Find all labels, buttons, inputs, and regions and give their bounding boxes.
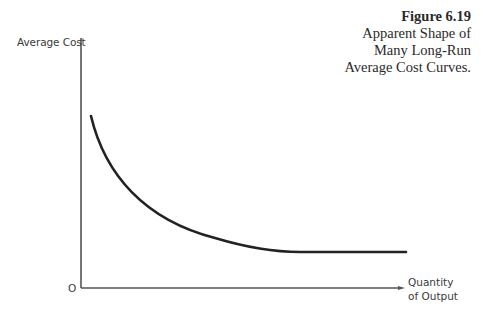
figure-caption: Figure 6.19 Apparent Shape of Many Long-… <box>344 8 471 76</box>
x-axis-arrow-icon <box>398 286 405 290</box>
x-axis-label-line-2: of Output <box>408 289 458 303</box>
x-axis-label-line-1: Quantity <box>408 275 458 289</box>
lrac-curve <box>91 116 406 252</box>
figure: Average Cost O Quantity of Output Figure… <box>0 0 483 310</box>
caption-line-1: Apparent Shape of <box>344 25 471 42</box>
caption-line-3: Average Cost Curves. <box>344 59 471 76</box>
origin-label: O <box>68 282 76 294</box>
figure-number: Figure 6.19 <box>344 8 471 25</box>
x-axis-label: Quantity of Output <box>408 275 458 303</box>
caption-line-2: Many Long-Run <box>344 42 471 59</box>
y-axis-label: Average Cost <box>17 36 86 48</box>
